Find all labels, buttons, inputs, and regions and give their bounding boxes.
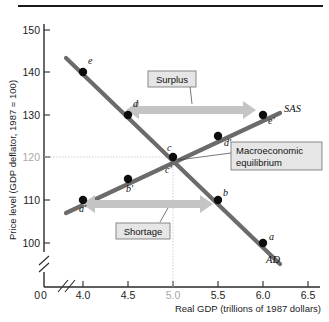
shortage-callout-label: Shortage bbox=[124, 226, 163, 237]
point-label-a-prime: a' bbox=[79, 203, 87, 214]
figure-container: 150 140 130 120 110 100 0 0 4.0 4.5 5.0 … bbox=[0, 0, 329, 322]
surplus-callout-label: Surplus bbox=[156, 74, 188, 85]
point-d bbox=[124, 111, 132, 119]
x-tick-label-5-0: 5.0 bbox=[166, 289, 181, 301]
y-axis-title: Price level (GDP deflator, 1987 = 100) bbox=[7, 80, 18, 240]
point-b bbox=[214, 196, 222, 204]
point-e-prime bbox=[259, 111, 267, 119]
y-tick-label-110: 110 bbox=[23, 194, 40, 206]
x-tick-label-zero: 0 bbox=[41, 289, 47, 301]
surplus-callout: Surplus bbox=[148, 71, 196, 104]
point-label-e-prime: e' bbox=[268, 115, 275, 126]
equilibrium-callout-line1: Macroeconomic bbox=[236, 145, 303, 156]
x-tick-label-6-0: 6.0 bbox=[256, 289, 271, 301]
y-tick-label-140: 140 bbox=[22, 66, 40, 78]
point-label-b-prime: b' bbox=[126, 183, 134, 194]
point-label-c: c bbox=[167, 142, 172, 153]
sas-curve-label: SAS bbox=[284, 103, 302, 114]
x-tick-label-4-0: 4.0 bbox=[76, 289, 91, 301]
macroeconomic-equilibrium-callout: Macroeconomic equilibrium bbox=[178, 142, 322, 170]
shortage-callout: Shortage bbox=[116, 208, 170, 239]
x-axis-break-mark bbox=[58, 280, 75, 292]
y-tick-label-130: 130 bbox=[22, 109, 40, 121]
point-d-prime bbox=[214, 132, 222, 140]
y-tick-label-120: 120 bbox=[22, 151, 40, 163]
ad-curve-label: AD bbox=[265, 254, 280, 265]
point-label-e: e bbox=[88, 55, 93, 66]
surplus-arrow bbox=[126, 101, 256, 119]
point-b-prime bbox=[124, 175, 132, 183]
x-tick-label-5-5: 5.5 bbox=[211, 289, 226, 301]
point-label-c-prime: c' bbox=[165, 164, 172, 175]
point-label-a: a bbox=[269, 231, 274, 242]
point-e bbox=[79, 68, 87, 76]
surplus-leader-line bbox=[190, 86, 192, 104]
point-label-b: b bbox=[223, 187, 228, 198]
point-equilibrium bbox=[169, 153, 177, 161]
x-axis-ticks: 0 4.0 4.5 5.0 5.5 6.0 6.5 bbox=[41, 281, 315, 301]
x-axis-title: Real GDP (trillions of 1987 dollars) bbox=[175, 303, 321, 314]
aggregate-demand-supply-chart: 150 140 130 120 110 100 0 0 4.0 4.5 5.0 … bbox=[0, 0, 329, 322]
x-tick-label-4-5: 4.5 bbox=[121, 289, 136, 301]
y-tick-label-150: 150 bbox=[22, 24, 40, 36]
equilibrium-callout-line2: equilibrium bbox=[236, 157, 282, 168]
y-tick-label-100: 100 bbox=[22, 237, 40, 249]
point-a bbox=[259, 239, 267, 247]
x-tick-label-6-5: 6.5 bbox=[301, 289, 316, 301]
y-axis-break-mark bbox=[39, 256, 49, 272]
shortage-leader-line bbox=[160, 208, 168, 222]
y-tick-label-zero: 0 bbox=[34, 289, 40, 301]
equilibrium-guides bbox=[44, 157, 173, 287]
